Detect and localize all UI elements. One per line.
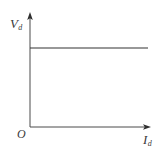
x-axis-label-subscript: d: [147, 139, 151, 148]
x-axis-label: Id: [143, 131, 152, 148]
y-axis-label-base: V: [10, 16, 18, 31]
origin-label: O: [17, 128, 26, 140]
chart-figure: Vd Id O: [0, 0, 165, 152]
y-axis-label-subscript: d: [18, 23, 22, 32]
y-axis-label: Vd: [10, 15, 22, 32]
